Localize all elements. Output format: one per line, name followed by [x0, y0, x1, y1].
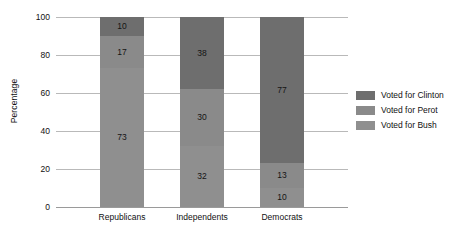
bar-segment[interactable]: 13 — [260, 163, 304, 188]
bar-segment-value: 10 — [117, 22, 126, 31]
legend-label: Voted for Perot — [381, 106, 438, 115]
bar-segment[interactable]: 10 — [100, 17, 144, 36]
plot-area: 101773383032771310 — [56, 17, 348, 207]
bar-segment[interactable]: 32 — [180, 146, 224, 207]
y-tick-label-80: 80 — [8, 50, 50, 60]
bar-segment-value: 38 — [197, 49, 206, 58]
x-tick-label-democrats: Democrats — [232, 212, 332, 222]
bar-group[interactable]: 101773 — [100, 17, 144, 207]
y-tick-label-100: 100 — [8, 12, 50, 22]
y-tick-label-0: 0 — [8, 202, 50, 212]
bar-segment-value: 10 — [277, 193, 286, 202]
legend-item[interactable]: Voted for Clinton — [356, 88, 460, 102]
legend-item[interactable]: Voted for Perot — [356, 103, 460, 117]
legend-label: Voted for Clinton — [381, 91, 444, 100]
gridline-0 — [56, 207, 348, 208]
bar-segment-value: 32 — [197, 172, 206, 181]
bar-segment[interactable]: 17 — [100, 36, 144, 68]
bars-layer: 101773383032771310 — [56, 17, 348, 207]
bar-segment[interactable]: 38 — [180, 17, 224, 89]
bar-segment-value: 30 — [197, 113, 206, 122]
bar-group[interactable]: 771310 — [260, 17, 304, 207]
bar-group[interactable]: 383032 — [180, 17, 224, 207]
y-tick-label-40: 40 — [8, 126, 50, 136]
bar-segment[interactable]: 73 — [100, 68, 144, 207]
bar-segment[interactable]: 77 — [260, 17, 304, 163]
legend-item[interactable]: Voted for Bush — [356, 118, 460, 132]
legend-swatch-icon — [356, 106, 375, 115]
legend-label: Voted for Bush — [381, 121, 437, 130]
stacked-bar-chart: Percentage 101773383032771310 1008060402… — [0, 0, 462, 246]
bar-segment-value: 77 — [277, 86, 286, 95]
bar-segment[interactable]: 30 — [180, 89, 224, 146]
bar-segment-value: 17 — [117, 48, 126, 57]
legend-swatch-icon — [356, 121, 375, 130]
y-tick-label-20: 20 — [8, 164, 50, 174]
bar-segment-value: 13 — [277, 171, 286, 180]
legend: Voted for ClintonVoted for PerotVoted fo… — [356, 88, 460, 133]
bar-segment-value: 73 — [117, 133, 126, 142]
y-tick-label-60: 60 — [8, 88, 50, 98]
legend-swatch-icon — [356, 91, 375, 100]
bar-segment[interactable]: 10 — [260, 188, 304, 207]
